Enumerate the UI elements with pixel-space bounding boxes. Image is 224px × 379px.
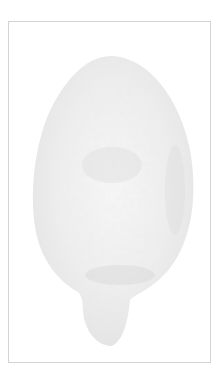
fruit-body — [33, 56, 193, 346]
citrus-illustration — [0, 0, 224, 379]
